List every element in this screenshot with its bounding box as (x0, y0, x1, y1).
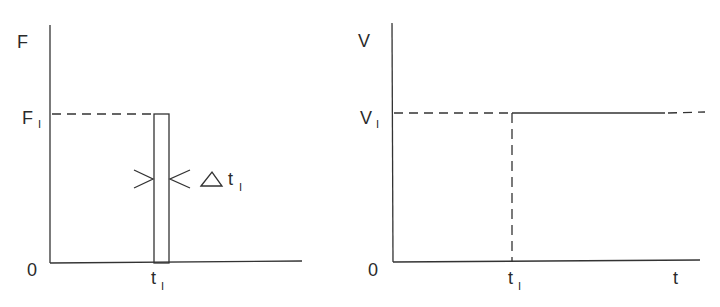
diagram-canvas: F F I 0 t I t I V V I 0 t I t (0, 0, 720, 307)
v-x-axis (393, 260, 700, 262)
v-x-axis-label: t (673, 268, 678, 288)
f-axis-label: F (17, 32, 28, 52)
f-t1-label: t (151, 268, 156, 288)
impulse-rect (154, 114, 169, 263)
f1-label: F (22, 108, 33, 128)
v-y-axis (392, 23, 393, 262)
f-x-axis (50, 261, 302, 263)
delta-t-sub: I (239, 181, 242, 193)
left-arrow-marker (134, 170, 153, 188)
f1-sub: I (38, 118, 41, 130)
v-origin-label: 0 (368, 260, 378, 280)
velocity-plot (392, 23, 705, 262)
f-t1-sub: I (161, 280, 164, 292)
f-origin-label: 0 (27, 260, 37, 280)
v-axis-label: V (358, 31, 370, 51)
force-plot (50, 25, 302, 263)
delta-t-label: t (228, 169, 233, 189)
delta-icon (201, 172, 222, 186)
right-arrow-marker (170, 170, 190, 188)
v-t1-sub: I (518, 280, 521, 292)
v-level-dashed-end (668, 112, 705, 113)
force-velocity-diagrams: F F I 0 t I t I V V I 0 t I t (0, 0, 720, 307)
v1-label: V (360, 108, 372, 128)
v1-sub: I (376, 118, 379, 130)
v-t1-label: t (508, 268, 513, 288)
